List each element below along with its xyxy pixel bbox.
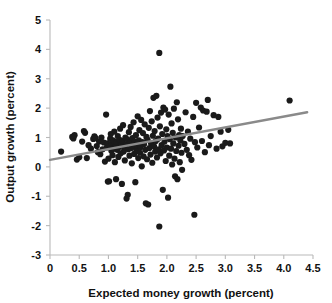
y-tick-label: -2 <box>31 220 41 232</box>
data-point <box>156 50 162 56</box>
data-point <box>215 114 221 120</box>
data-point <box>166 153 172 159</box>
data-point <box>179 167 185 173</box>
data-point <box>191 212 197 218</box>
data-point <box>103 111 109 117</box>
data-points-group <box>58 50 293 230</box>
data-point <box>84 155 90 161</box>
x-axis: 00.51.01.52.02.53.03.54.04.5 <box>47 255 321 274</box>
data-point <box>119 181 125 187</box>
data-point <box>168 120 174 126</box>
data-point <box>196 124 202 130</box>
data-point <box>157 123 163 129</box>
data-point <box>227 140 233 146</box>
scatter-chart: 543210-1-2-3 00.51.01.52.02.53.03.54.04.… <box>0 0 332 303</box>
y-axis: 543210-1-2-3 <box>31 14 50 261</box>
x-tick-label: 0.5 <box>72 262 87 274</box>
data-point <box>160 187 166 193</box>
data-point <box>182 109 188 115</box>
y-tick-label: 1 <box>35 132 41 144</box>
y-tick-label: 4 <box>35 43 42 55</box>
data-point <box>213 146 219 152</box>
x-tick-label: 0 <box>47 262 53 274</box>
data-point <box>204 109 210 115</box>
data-point <box>122 157 128 163</box>
x-tick-label: 2.5 <box>188 262 203 274</box>
data-point <box>175 143 181 149</box>
data-point <box>149 118 155 124</box>
data-point <box>71 132 77 138</box>
data-point <box>184 147 190 153</box>
data-point <box>173 148 179 154</box>
data-point <box>129 160 135 166</box>
data-point <box>132 179 138 185</box>
data-point <box>165 195 171 201</box>
data-point <box>171 106 177 112</box>
data-point <box>145 201 151 207</box>
x-tick-group: 00.51.01.52.02.53.03.54.04.5 <box>47 255 321 274</box>
data-point <box>146 125 152 131</box>
data-point <box>171 156 177 162</box>
data-point <box>153 93 159 99</box>
data-point <box>167 84 173 90</box>
data-point <box>194 144 200 150</box>
data-point <box>163 158 169 164</box>
data-point <box>178 126 184 132</box>
data-point <box>113 176 119 182</box>
data-point <box>125 192 131 198</box>
data-point <box>156 223 162 229</box>
data-point <box>79 139 85 145</box>
x-tick-label: 3.0 <box>218 262 233 274</box>
data-point <box>106 178 112 184</box>
x-tick-label: 4.5 <box>305 262 320 274</box>
data-point <box>208 133 214 139</box>
data-point <box>163 126 169 132</box>
data-point <box>199 138 205 144</box>
data-point <box>58 149 64 155</box>
y-tick-label: 3 <box>35 73 41 85</box>
data-point <box>130 119 136 125</box>
y-tick-label: 5 <box>35 14 41 26</box>
x-tick-label: 4.0 <box>276 262 291 274</box>
data-point <box>109 152 115 158</box>
data-point <box>112 159 118 165</box>
data-point <box>154 114 160 120</box>
data-point <box>205 97 211 103</box>
x-axis-title: Expected money growth (percent) <box>88 287 273 299</box>
x-tick-label: 1.0 <box>101 262 116 274</box>
y-tick-label: -3 <box>31 249 41 261</box>
data-point <box>135 155 141 161</box>
x-tick-label: 1.5 <box>130 262 145 274</box>
y-tick-label: -1 <box>31 190 41 202</box>
data-point <box>133 132 139 138</box>
data-point <box>181 141 187 147</box>
data-point <box>202 149 208 155</box>
data-point <box>147 108 153 114</box>
data-point <box>287 97 293 103</box>
x-tick-label: 3.5 <box>247 262 262 274</box>
data-point <box>188 157 194 163</box>
y-tick-group: 543210-1-2-3 <box>31 14 50 261</box>
data-point <box>206 142 212 148</box>
y-axis-title: Output growth (percent) <box>4 71 16 203</box>
data-point <box>166 111 172 117</box>
data-point <box>162 106 168 112</box>
data-point <box>169 161 175 167</box>
data-point <box>175 116 181 122</box>
data-point <box>177 159 183 165</box>
x-tick-label: 2.0 <box>159 262 174 274</box>
data-point <box>152 128 158 134</box>
data-point <box>126 129 132 135</box>
chart-canvas: 543210-1-2-3 00.51.01.52.02.53.03.54.04.… <box>0 0 332 303</box>
data-point <box>178 150 184 156</box>
data-point <box>192 139 198 145</box>
data-point <box>139 163 145 169</box>
data-point <box>174 176 180 182</box>
data-point <box>174 99 180 105</box>
y-tick-label: 0 <box>35 161 41 173</box>
y-tick-label: 2 <box>35 102 41 114</box>
data-point <box>149 160 155 166</box>
data-point <box>190 114 196 120</box>
data-point <box>82 130 88 136</box>
data-point <box>193 100 199 106</box>
